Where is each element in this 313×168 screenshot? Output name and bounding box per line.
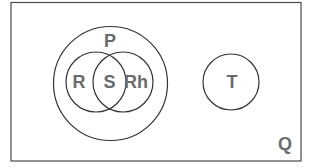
label-rh: Rh xyxy=(124,72,148,92)
universe-q-rectangle xyxy=(11,3,301,162)
label-p: P xyxy=(104,31,116,51)
label-r: R xyxy=(73,72,86,92)
label-s: S xyxy=(103,72,115,92)
label-q: Q xyxy=(278,134,292,154)
venn-diagram: P R S Rh T Q xyxy=(0,0,313,168)
label-t: T xyxy=(227,72,238,92)
